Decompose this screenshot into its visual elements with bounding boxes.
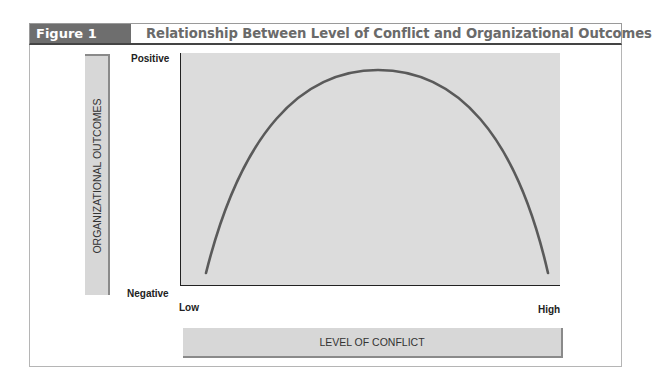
y-axis-label: ORGANIZATIONAL OUTCOMES	[91, 98, 103, 253]
x-tick-high: High	[538, 304, 560, 315]
outcome-curve	[181, 53, 561, 286]
x-axis-label-box: LEVEL OF CONFLICT	[183, 328, 563, 358]
y-tick-positive: Positive	[131, 53, 169, 64]
x-axis-label: LEVEL OF CONFLICT	[183, 336, 561, 348]
figure-header: Figure 1 Relationship Between Level of C…	[29, 23, 622, 45]
figure-number: Figure 1	[30, 24, 131, 43]
x-tick-low: Low	[179, 302, 199, 313]
plot-area	[180, 53, 560, 286]
y-axis-label-box: ORGANIZATIONAL OUTCOMES	[85, 54, 110, 295]
y-tick-negative: Negative	[127, 288, 169, 299]
figure-title: Relationship Between Level of Conflict a…	[146, 24, 652, 43]
